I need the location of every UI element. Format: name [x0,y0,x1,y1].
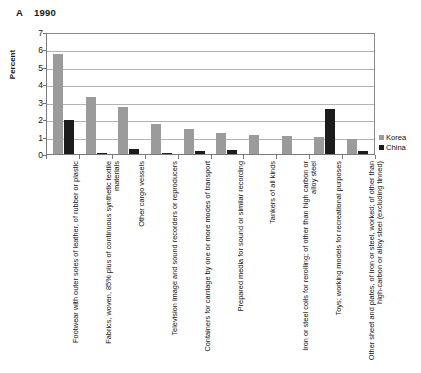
x-label-slot: Television image and sound recorders or … [145,159,178,367]
legend-entry[interactable]: Korea [379,133,406,143]
y-tick-label: 3 [17,99,43,107]
x-label-slot: Fabrics, woven, 85% plus of continuous s… [79,159,112,367]
bar-korea [347,139,357,154]
chart-year: 1990 [34,7,56,18]
y-tick-label: 4 [17,81,43,89]
plot-area [46,33,375,155]
x-tick-mark [375,155,376,159]
bar-korea [184,129,194,154]
legend-entry[interactable]: China [379,143,406,153]
y-tick-label: 0 [17,151,43,159]
bar-group [178,34,211,154]
bar-china [227,150,237,154]
bar-group [211,34,244,154]
y-tick-label: 5 [17,64,43,72]
bar-china [97,153,107,154]
bar-korea [314,137,324,154]
bar-group [341,34,374,154]
bar-group [276,34,309,154]
legend-swatch-icon [379,135,384,140]
bar-korea [249,135,259,154]
legend-swatch-icon [379,145,384,150]
legend-label: Korea [386,133,406,143]
bar-china [129,149,139,154]
bar-china [64,120,74,154]
x-axis-category-label: Other sheet and plates, of iron or steel… [368,161,385,361]
bar-korea [216,133,226,154]
bar-group [309,34,342,154]
bar-china [162,153,172,154]
bar-korea [86,97,96,155]
chart-figure: A1990 Percent 01234567 Footwear with out… [0,0,421,373]
panel-letter: A [16,7,23,18]
y-tick-label: 7 [17,29,43,37]
x-label-slot: Prepared media for sound or similar reco… [211,159,244,367]
x-label-slot: Footwear with outer soles of leather, of… [46,159,79,367]
y-tick-label: 2 [17,116,43,124]
x-axis-labels: Footwear with outer soles of leather, of… [46,159,375,367]
bar-china [358,151,368,154]
x-label-slot: Toys; working models for recreational pu… [309,159,342,367]
bar-group [145,34,178,154]
bar-groups [47,34,374,154]
chart-legend: KoreaChina [379,133,406,152]
chart-title: A1990 [16,7,56,18]
y-axis-ticks: 01234567 [12,33,43,155]
bar-group [80,34,113,154]
legend-label: China [386,143,406,153]
bar-group [243,34,276,154]
bar-korea [118,107,128,154]
bar-china [195,151,205,154]
x-label-slot: Tankers of all kinds [243,159,276,367]
bar-group [112,34,145,154]
bar-korea [282,136,292,154]
bar-korea [53,54,63,154]
bar-korea [151,124,161,155]
x-label-slot: Other cargo vessels [112,159,145,367]
bar-group [47,34,80,154]
y-tick-label: 1 [17,134,43,142]
y-tick-label: 6 [17,46,43,54]
x-label-slot: Other sheet and plates, of iron or steel… [342,159,375,367]
bar-china [325,109,335,154]
x-label-slot: Iron or steel coils for rerolling; of ot… [276,159,309,367]
x-label-slot: Containers for carriage by one or more m… [178,159,211,367]
